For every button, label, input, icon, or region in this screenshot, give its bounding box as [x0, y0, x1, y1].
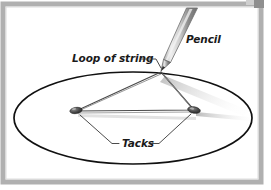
- corner-mark-secondary-icon: [246, 0, 254, 5]
- figure-frame: [0, 0, 271, 190]
- corner-mark-icon: [254, 0, 264, 8]
- tacks-label: Tacks: [122, 137, 154, 149]
- ellipse-construction-figure: Pencil Loop of string Tacks: [0, 0, 271, 190]
- figure-canvas: Pencil Loop of string Tacks: [0, 0, 271, 190]
- loop-of-string-label: Loop of string: [72, 52, 154, 64]
- pencil-label-group: Pencil: [186, 33, 221, 45]
- pencil-label: Pencil: [186, 33, 221, 45]
